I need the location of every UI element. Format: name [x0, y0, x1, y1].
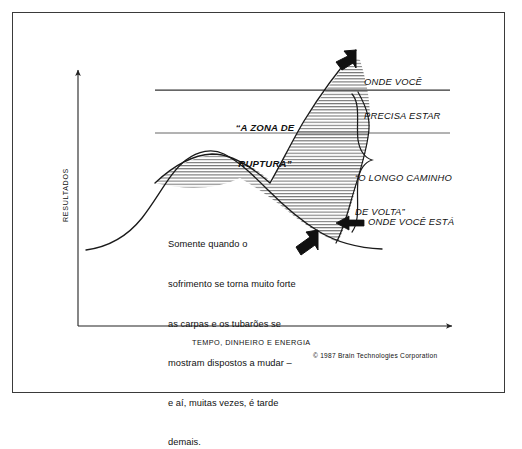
- body-line-2: sofrimento se torna muito forte: [168, 278, 320, 291]
- caminho-line1: “O LONGO CAMINHO: [355, 172, 452, 183]
- zona-line2: RUPTURA”: [212, 158, 318, 170]
- x-axis-label: TEMPO, DINHEIRO E ENERGIA: [192, 339, 311, 348]
- zona-line1: “A ZONA DE: [212, 122, 318, 134]
- annotation-onde-voce-precisa-estar: ONDE VOCÊ PRECISA ESTAR: [364, 53, 441, 145]
- annotation-precisa-line2: PRECISA ESTAR: [364, 110, 441, 121]
- y-axis-label: RESULTADOS: [62, 168, 71, 222]
- annotation-precisa-line1: ONDE VOCÊ: [364, 76, 441, 87]
- body-paragraph: Somente quando o sofrimento se torna mui…: [168, 212, 320, 449]
- annotation-onde-voce-esta: ONDE VOCÊ ESTÁ: [368, 216, 454, 227]
- body-line-5: e aí, muitas vezes, é tarde: [168, 397, 320, 410]
- body-line-4: mostram dispostos a mudar –: [168, 357, 320, 370]
- annotation-zona-de-ruptura: “A ZONA DE RUPTURA”: [212, 99, 318, 193]
- body-line-3: as carpas e os tubarões se: [168, 318, 320, 331]
- copyright-notice: © 1987 Brain Technologies Corporation: [313, 352, 437, 360]
- body-line-6: demais.: [168, 436, 320, 449]
- body-line-1: Somente quando o: [168, 238, 320, 251]
